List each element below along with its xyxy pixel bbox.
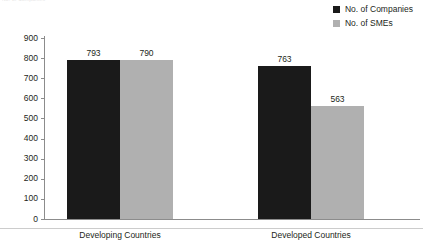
y-tick-label: 500	[8, 114, 38, 123]
x-axis-line	[44, 219, 420, 220]
x-axis-baseline-rule	[0, 228, 423, 229]
y-tick-mark	[41, 199, 44, 200]
y-tick-mark	[41, 58, 44, 59]
y-axis-line	[44, 36, 45, 220]
plot-area: 9008007006005004003002001000 79379076356…	[0, 0, 423, 248]
y-tick-mark	[41, 159, 44, 160]
y-tick-label: 800	[8, 54, 38, 63]
y-tick-mark	[41, 179, 44, 180]
bar-companies[interactable]	[258, 66, 311, 219]
bar-chart: No. of Companies No. of Companies No. of…	[0, 0, 423, 248]
y-tick-label: 100	[8, 194, 38, 203]
category-label: Developed Countries	[238, 231, 384, 240]
bar-companies[interactable]	[67, 60, 120, 219]
y-tick-label: 200	[8, 174, 38, 183]
y-tick-label: 400	[8, 134, 38, 143]
y-tick-label: 700	[8, 74, 38, 83]
bar-value-label: 793	[67, 49, 120, 58]
y-tick-mark	[41, 98, 44, 99]
y-tick-label: 300	[8, 154, 38, 163]
bar-value-label: 763	[258, 55, 311, 64]
y-tick-label: 900	[8, 34, 38, 43]
bar-value-label: 563	[311, 95, 364, 104]
y-tick-mark	[41, 139, 44, 140]
category-label: Developing Countries	[47, 231, 193, 240]
y-tick-mark	[41, 118, 44, 119]
bar-value-label: 790	[120, 49, 173, 58]
bar-smes[interactable]	[311, 106, 364, 219]
y-tick-label: 600	[8, 94, 38, 103]
y-tick-mark	[41, 219, 44, 220]
y-tick-mark	[41, 38, 44, 39]
bar-smes[interactable]	[120, 60, 173, 219]
y-tick-label: 0	[8, 215, 38, 224]
y-tick-mark	[41, 78, 44, 79]
